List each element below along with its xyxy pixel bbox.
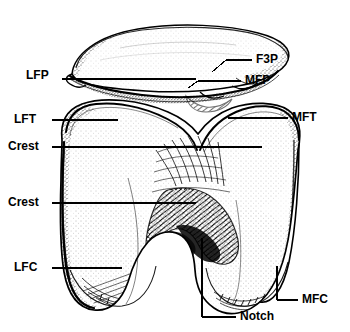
label-mfp: MFP (245, 74, 270, 86)
figure-container: F. 2.2 (0, 0, 350, 332)
label-lfp: LFP (26, 69, 49, 81)
anatomy-illustration (0, 0, 350, 332)
label-notch: Notch (240, 310, 274, 322)
label-f3p: F3P (256, 53, 278, 65)
label-mfc: MFC (302, 293, 328, 305)
label-mft: MFT (292, 111, 317, 123)
label-crest-lower: Crest (8, 196, 39, 208)
label-lft: LFT (14, 113, 36, 125)
label-lfc: LFC (14, 261, 37, 273)
label-crest-upper: Crest (8, 140, 39, 152)
